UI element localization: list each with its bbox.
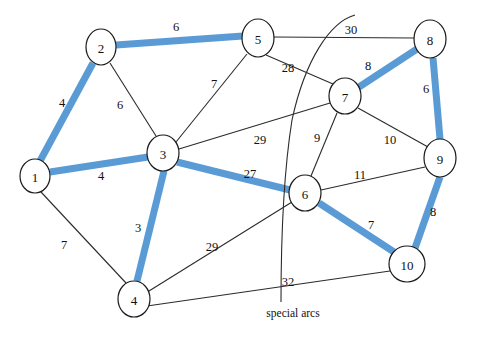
edge-3-6-highlight xyxy=(177,162,290,190)
edge-label-6-10: 7 xyxy=(368,218,374,232)
node-7[interactable]: 7 xyxy=(329,78,361,114)
node-5[interactable]: 5 xyxy=(242,19,274,57)
edge-label-1-2: 4 xyxy=(59,96,66,110)
graph-diagram-canvas: 1 2 3 4 5 6 7 xyxy=(0,0,477,340)
edge-label-6-9: 11 xyxy=(354,168,366,182)
edge-label-1-4: 7 xyxy=(61,238,67,252)
node-9[interactable]: 9 xyxy=(424,139,456,177)
edge-label-9-10: 8 xyxy=(430,205,436,219)
edge-label-3-7: 29 xyxy=(254,133,267,147)
edge-label-5-8: 30 xyxy=(345,23,358,37)
node-1[interactable]: 1 xyxy=(20,159,50,193)
edge-label-3-5: 7 xyxy=(211,77,217,91)
edge-5-8 xyxy=(274,37,414,38)
node-3-label: 3 xyxy=(160,147,167,162)
node-4-label: 4 xyxy=(131,293,138,308)
node-6-label: 6 xyxy=(302,187,309,202)
node-5-label: 5 xyxy=(255,32,262,47)
edge-label-4-10: 32 xyxy=(282,275,295,289)
edge-4-10 xyxy=(147,271,390,306)
node-1-label: 1 xyxy=(32,170,39,185)
node-8-label: 8 xyxy=(427,33,434,48)
special-arcs-caption: special arcs xyxy=(266,307,320,320)
edge-label-1-3: 4 xyxy=(98,169,105,183)
node-8[interactable]: 8 xyxy=(414,20,446,58)
highlighted-edges-group xyxy=(40,36,440,281)
node-6[interactable]: 6 xyxy=(289,175,321,211)
node-4[interactable]: 4 xyxy=(118,281,150,317)
node-2-label: 2 xyxy=(98,41,105,56)
edge-label-3-6: 27 xyxy=(244,167,257,181)
edge-labels-group: 6 4 6 4 7 3 7 29 27 30 28 8 6 9 10 11 7 … xyxy=(59,20,436,289)
edge-8-9-highlight xyxy=(433,58,440,139)
node-2[interactable]: 2 xyxy=(86,29,116,65)
graph-svg: 1 2 3 4 5 6 7 xyxy=(0,0,477,340)
edge-3-5 xyxy=(176,54,247,142)
edge-label-7-9: 10 xyxy=(384,133,397,147)
edge-6-9 xyxy=(321,167,425,190)
edge-label-5-7: 28 xyxy=(282,61,295,75)
edge-2-5-highlight xyxy=(116,36,243,45)
edge-1-4 xyxy=(41,192,126,283)
edge-4-6 xyxy=(149,202,292,291)
node-10-label: 10 xyxy=(401,258,414,273)
edge-1-2-highlight xyxy=(40,63,93,161)
edge-5-7 xyxy=(266,55,333,84)
edge-label-3-4: 3 xyxy=(135,221,141,235)
edge-label-7-6: 9 xyxy=(314,131,320,145)
edge-9-10-highlight xyxy=(415,177,440,248)
node-7-label: 7 xyxy=(342,90,349,105)
edge-label-2-5: 6 xyxy=(173,20,179,34)
node-3[interactable]: 3 xyxy=(147,135,179,171)
edge-label-7-8: 8 xyxy=(365,59,371,73)
edge-label-4-6: 29 xyxy=(206,240,219,254)
annotations-group: special arcs xyxy=(266,307,320,320)
edge-label-8-9: 6 xyxy=(423,82,429,96)
node-10[interactable]: 10 xyxy=(389,246,425,282)
edge-label-2-3: 6 xyxy=(117,98,123,112)
edge-6-10-highlight xyxy=(319,203,394,252)
node-9-label: 9 xyxy=(437,152,444,167)
